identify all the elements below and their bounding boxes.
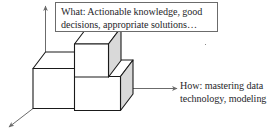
depth-axis-arrow xyxy=(9,109,33,128)
lower-right-block-front-face xyxy=(75,77,121,111)
lower-left-block-front-face xyxy=(33,69,77,109)
what-callout-box: What: Actionable knowledge, good decisio… xyxy=(55,2,218,32)
upper-middle-block xyxy=(75,28,122,78)
upper-middle-block-front-face xyxy=(75,44,109,77)
how-label-line-1: How: mastering data xyxy=(180,79,276,92)
figure-canvas: What: Actionable knowledge, good decisio… xyxy=(0,0,276,132)
how-label-line-2: technology, modeling xyxy=(180,92,276,105)
what-callout-line-1: What: Actionable knowledge, good xyxy=(61,5,213,18)
what-callout-line-2: decisions, appropriate solutions… xyxy=(61,18,213,31)
how-label: How: mastering data technology, modeling xyxy=(180,79,276,105)
stray-dot-mark xyxy=(205,44,206,45)
